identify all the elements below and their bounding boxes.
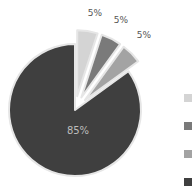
legend-swatch-2	[184, 122, 192, 130]
slice-label-3: 5%	[137, 30, 152, 40]
pie-chart: 5%5%5%85%	[0, 0, 192, 195]
slice-label-1: 5%	[88, 8, 103, 18]
slice-label-2: 5%	[114, 15, 129, 25]
legend-swatch-3	[184, 150, 192, 158]
legend-swatch-4	[184, 178, 192, 186]
slice-label-4: 85%	[67, 125, 89, 136]
legend-swatch-1	[184, 94, 192, 102]
